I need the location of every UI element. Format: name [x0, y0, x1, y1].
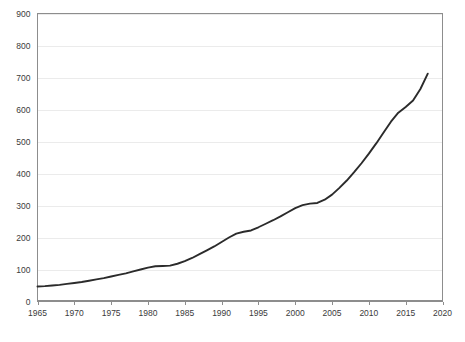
chart-canvas: 0100200300400500600700800900 19651970197… [0, 0, 465, 342]
y-tick-label-400: 400 [16, 169, 30, 179]
line-chart: 0100200300400500600700800900 19651970197… [0, 0, 465, 342]
y-tick-label-500: 500 [16, 137, 30, 147]
x-tick-label-1965: 1965 [28, 308, 47, 318]
x-tick-label-2000: 2000 [286, 308, 305, 318]
y-tick-labels-group: 0100200300400500600700800900 [16, 9, 30, 307]
y-tick-label-300: 300 [16, 201, 30, 211]
data-series-group [38, 74, 428, 287]
y-tick-label-100: 100 [16, 265, 30, 275]
x-tick-labels-group: 1965197019751980198519901995200020052010… [28, 308, 452, 318]
x-tick-label-1985: 1985 [175, 308, 194, 318]
data-line-series-1 [38, 74, 428, 287]
x-tick-label-1975: 1975 [102, 308, 121, 318]
x-tick-label-1990: 1990 [212, 308, 231, 318]
plot-border-group [38, 14, 443, 302]
y-tick-label-700: 700 [16, 73, 30, 83]
x-tick-label-2015: 2015 [396, 308, 415, 318]
y-tick-label-600: 600 [16, 105, 30, 115]
x-tick-label-2005: 2005 [323, 308, 342, 318]
y-tick-label-900: 900 [16, 9, 30, 19]
y-tick-label-0: 0 [26, 297, 31, 307]
x-tick-label-1980: 1980 [138, 308, 157, 318]
plot-area-border [38, 14, 443, 302]
y-tick-label-200: 200 [16, 233, 30, 243]
x-tick-label-2020: 2020 [433, 308, 452, 318]
x-tick-label-1970: 1970 [65, 308, 84, 318]
x-tick-label-1995: 1995 [249, 308, 268, 318]
x-tick-label-2010: 2010 [359, 308, 378, 318]
y-tick-label-800: 800 [16, 41, 30, 51]
